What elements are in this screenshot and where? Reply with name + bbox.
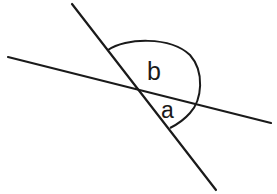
- angle-diagram: b a: [0, 0, 277, 194]
- angle-b-label: b: [147, 57, 161, 85]
- angle-a-label: a: [161, 97, 174, 123]
- shallow-line: [8, 57, 271, 123]
- steep-line: [72, 4, 216, 190]
